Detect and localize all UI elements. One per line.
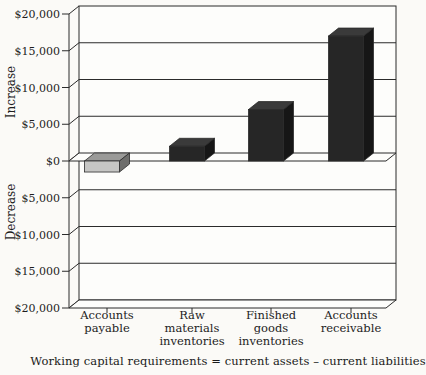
x-category-label-3: Accountsreceivable — [321, 308, 382, 335]
y-tick-label-4: $0 — [46, 155, 60, 168]
y-tick-label-7: $15,000 — [15, 265, 61, 278]
y-tick-label-8: $20,000 — [15, 302, 61, 315]
bar-side-face-2 — [284, 102, 294, 161]
chart-caption: Working capital requirements = current a… — [30, 354, 425, 368]
left-wall-rib — [69, 263, 79, 271]
left-wall-rib — [69, 116, 79, 124]
x-category-label-2: Finishedgoodsinventories — [238, 308, 303, 348]
left-wall-rib — [69, 6, 79, 14]
left-wall-rib — [69, 80, 79, 88]
left-wall-rib — [69, 190, 79, 198]
floor-plane — [69, 300, 396, 308]
x-category-label-1: Rawmaterialsinventories — [159, 308, 224, 348]
x-category-label-0: Accountspayable — [79, 308, 134, 335]
y-tick-label-3: $5,000 — [22, 118, 61, 131]
bar-front-face-1 — [170, 146, 205, 161]
y-tick-label-6: $10,000 — [15, 229, 61, 242]
decrease-axis-label: Decrease — [4, 184, 18, 241]
y-tick-label-2: $10,000 — [15, 82, 61, 95]
bar-front-face-2 — [249, 110, 284, 161]
y-tick-label-5: $5,000 — [22, 192, 61, 205]
bar-front-face-3 — [329, 36, 364, 161]
bar-front-face-0 — [85, 161, 120, 172]
y-tick-label-0: $20,000 — [15, 8, 61, 21]
increase-axis-label: Increase — [4, 66, 18, 118]
left-wall-rib — [69, 43, 79, 51]
y-tick-label-1: $15,000 — [15, 45, 61, 58]
left-wall-rib — [69, 227, 79, 235]
bar-side-face-3 — [364, 28, 374, 161]
